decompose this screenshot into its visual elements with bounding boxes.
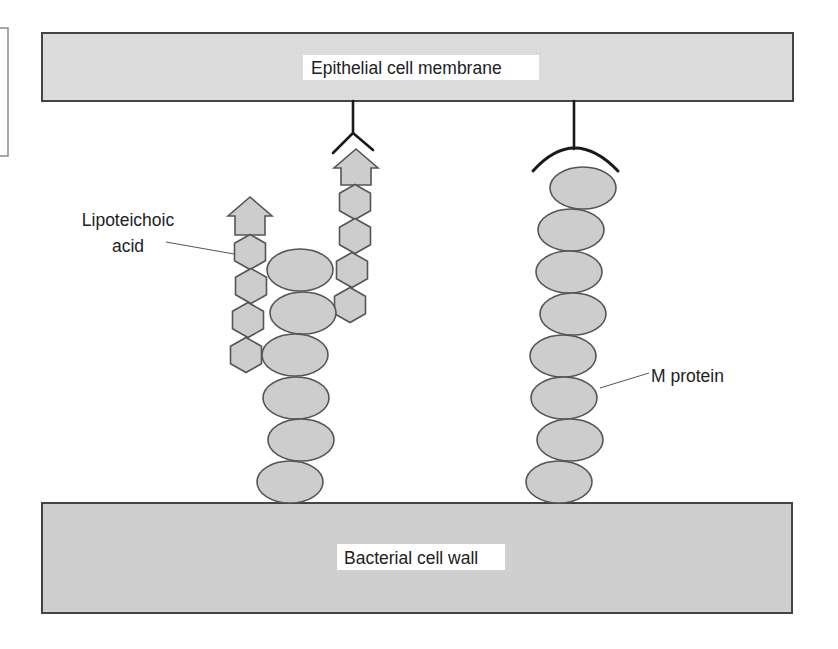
- bacterial-cell-wall: Bacterial cell wall: [42, 503, 792, 613]
- m-protein-subunit-ellipse: [536, 251, 602, 293]
- y-receptor-path: [333, 101, 373, 153]
- lipoteichoic-label-line2: acid: [112, 236, 144, 256]
- arc-receptor-icon: [533, 101, 618, 171]
- glycerol-phosphate-hexagon: [335, 288, 366, 323]
- protein-subunit-ellipse: [257, 461, 323, 503]
- lipoteichoic-leader-line: [166, 242, 234, 254]
- protein-subunit-ellipse: [267, 249, 333, 291]
- m-protein-subunit-ellipse: [550, 167, 616, 209]
- m-protein-leader-line: [600, 373, 649, 388]
- m-protein-subunit-ellipse: [530, 335, 596, 377]
- glycerol-phosphate-hexagon: [233, 303, 264, 338]
- protein-subunit-ellipse: [263, 377, 329, 419]
- left-protein-stack: [257, 249, 336, 503]
- y-shaped-receptor-icon: [333, 101, 373, 153]
- wall-label: Bacterial cell wall: [344, 548, 478, 568]
- m-protein-subunit-ellipse: [538, 209, 604, 251]
- m-protein-subunit-ellipse: [531, 377, 597, 419]
- membrane-label: Epithelial cell membrane: [311, 58, 502, 78]
- lipid-anchor-arrow-icon: [228, 197, 272, 235]
- lipoteichoic-acid-chain-right: [334, 149, 378, 323]
- diagram-canvas: Epithelial cell membrane Bacterial cell …: [0, 0, 838, 649]
- protein-subunit-ellipse: [262, 334, 328, 376]
- glycerol-phosphate-hexagon: [337, 253, 368, 288]
- side-box-partial: [0, 28, 8, 156]
- m-protein-label: M protein: [651, 366, 724, 386]
- m-protein-stack: [526, 167, 616, 503]
- protein-subunit-ellipse: [270, 292, 336, 334]
- glycerol-phosphate-hexagon: [340, 185, 371, 220]
- glycerol-phosphate-hexagon: [235, 235, 266, 270]
- glycerol-phosphate-hexagon: [231, 338, 262, 373]
- m-protein-subunit-ellipse: [526, 461, 592, 503]
- lipid-anchor-arrow-icon: [334, 149, 378, 185]
- m-protein-subunit-ellipse: [540, 293, 606, 335]
- glycerol-phosphate-hexagon: [236, 269, 267, 304]
- lipoteichoic-label-line1: Lipoteichoic: [82, 210, 175, 230]
- m-protein-subunit-ellipse: [537, 419, 603, 461]
- glycerol-phosphate-hexagon: [340, 219, 371, 254]
- protein-subunit-ellipse: [268, 419, 334, 461]
- epithelial-cell-membrane: Epithelial cell membrane: [42, 33, 793, 101]
